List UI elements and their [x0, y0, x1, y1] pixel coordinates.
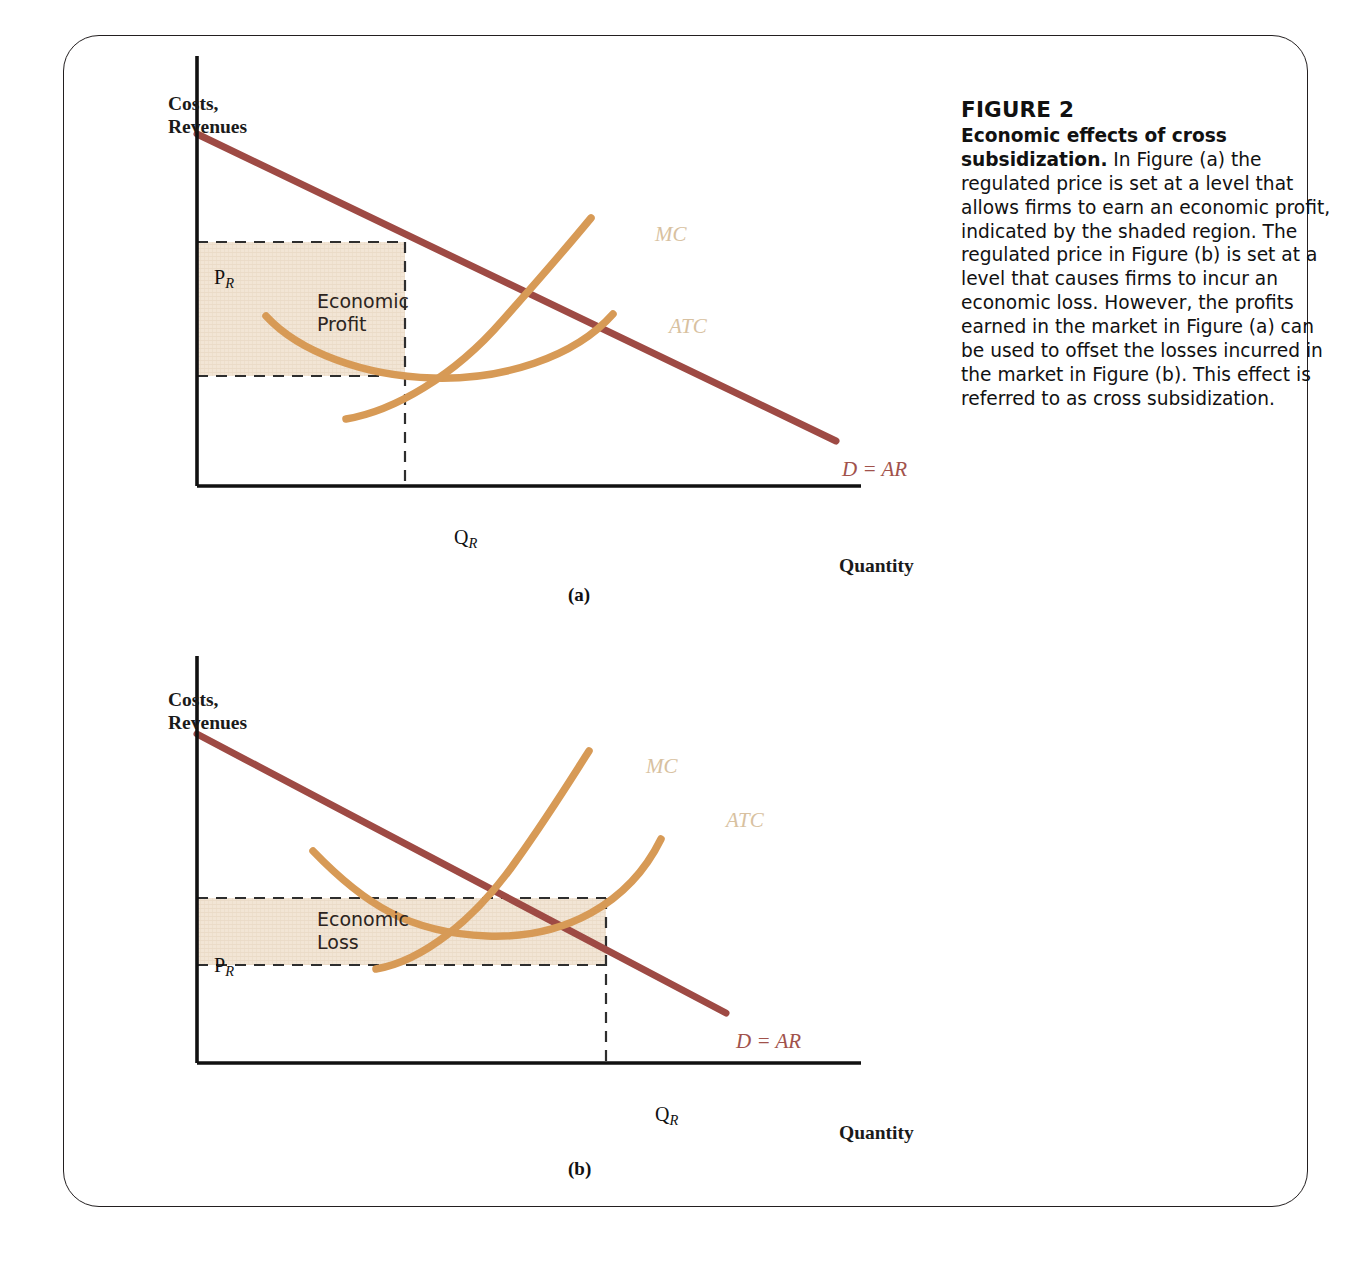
panel-a-y-axis-title: Costs, Revenues [168, 92, 247, 138]
panel-b-price-letter: P [214, 954, 225, 976]
panel-a-demand-label: D = AR [842, 457, 907, 482]
figure-caption: FIGURE 2 Economic effects of cross subsi… [961, 98, 1339, 411]
panel-a-atc-label: ATC [669, 314, 707, 339]
panel-b-atc-label: ATC [726, 808, 764, 833]
figure-frame: Costs, Revenues Quantity PR QR Economic … [63, 35, 1308, 1207]
panel-b-quantity-tick: QR [655, 1103, 678, 1129]
panel-a-price-tick: PR [214, 266, 234, 292]
figure-caption-text: Economic effects of cross subsidization.… [961, 124, 1339, 411]
panel-b-quantity-subscript: R [669, 1112, 678, 1128]
panel-a-quantity-letter: Q [454, 526, 468, 548]
panel-b-mc-label: MC [646, 754, 678, 779]
panel-a-price-letter: P [214, 266, 225, 288]
chart-panel-a: Costs, Revenues Quantity PR QR Economic … [64, 36, 964, 636]
panel-b-price-subscript: R [225, 963, 234, 979]
panel-a-quantity-tick: QR [454, 526, 477, 552]
panel-a-letter: (a) [568, 584, 590, 606]
figure-caption-body: In Figure (a) the regulated price is set… [961, 149, 1330, 409]
panel-b-x-axis-title: Quantity [839, 1121, 914, 1144]
panel-b-demand-label: D = AR [736, 1029, 801, 1054]
panel-b-price-tick: PR [214, 954, 234, 980]
panel-a-x-axis-title: Quantity [839, 554, 914, 577]
figure-number: FIGURE 2 [961, 98, 1339, 123]
panel-b-letter: (b) [568, 1158, 591, 1180]
panel-b-y-axis-title: Costs, Revenues [168, 688, 247, 734]
panel-a-mc-label: MC [655, 222, 687, 247]
panel-a-price-subscript: R [225, 275, 234, 291]
panel-a-quantity-subscript: R [468, 535, 477, 551]
chart-panel-b: Costs, Revenues Quantity PR QR Economic … [64, 636, 964, 1213]
panel-a-region-label: Economic Profit [317, 290, 409, 336]
panel-b-region-label: Economic Loss [317, 908, 409, 954]
panel-b-quantity-letter: Q [655, 1103, 669, 1125]
